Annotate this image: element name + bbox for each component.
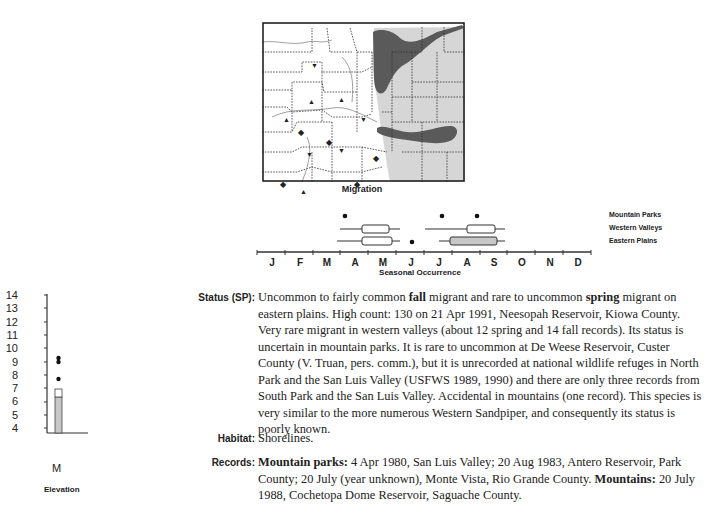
- diamond-icon: ◆: [373, 154, 379, 163]
- legend-mountain-parks: Mountain Parks: [609, 211, 661, 218]
- map-title: Migration: [262, 184, 462, 194]
- seasonal-axis-title: Seasonal Occurrence: [360, 268, 480, 277]
- month-label: N: [540, 257, 560, 268]
- month-label: M: [373, 257, 393, 268]
- migration-map: ▼ ▲ ▲ ▲ ▼ ◆ ◆ ▼ ▼ ◆ ◆ ▲ ◆: [262, 22, 465, 182]
- month-label: F: [290, 257, 310, 268]
- legend-western-valleys: Western Valleys: [609, 224, 662, 231]
- month-label: D: [568, 257, 588, 268]
- elevation-x-label: M: [52, 462, 61, 474]
- month-label: M: [317, 257, 337, 268]
- habitat-text: Shorelines.: [258, 430, 703, 447]
- month-label: J: [429, 257, 449, 268]
- month-label: J: [401, 257, 421, 268]
- triangle-down-icon: ▼: [306, 151, 313, 159]
- status-label: Status (SP):: [160, 292, 255, 303]
- elevation-graphic: [0, 290, 100, 460]
- triangle-down-icon: ▼: [360, 116, 367, 124]
- triangle-down-icon: ▼: [311, 62, 318, 70]
- triangle-down-icon: ▼: [338, 147, 345, 155]
- month-label: A: [345, 257, 365, 268]
- elevation-title: Elevation: [44, 485, 80, 494]
- triangle-up-icon: ▲: [338, 96, 345, 104]
- records-label: Records:: [160, 457, 255, 468]
- triangle-up-icon: ▲: [283, 116, 290, 124]
- boxplot-graphic: [255, 205, 595, 255]
- status-text: Uncommon to fairly common fall migrant a…: [258, 289, 703, 438]
- month-label: A: [457, 257, 477, 268]
- elevation-chart: 14 13 12 11 10 9 8 7 6 5 4: [0, 290, 100, 460]
- seasonal-occurrence-chart: [255, 205, 595, 255]
- records-text: Mountain parks: 4 Apr 1980, San Luis Val…: [258, 454, 703, 504]
- month-label: S: [484, 257, 504, 268]
- colorado-map-graphic: [262, 22, 465, 182]
- triangle-up-icon: ▲: [308, 98, 315, 106]
- habitat-label: Habitat:: [160, 433, 255, 444]
- month-label: O: [512, 257, 532, 268]
- diamond-icon: ◆: [326, 138, 332, 147]
- diamond-icon: ◆: [298, 128, 304, 137]
- month-label: J: [262, 257, 282, 268]
- legend-eastern-plains: Eastern Plains: [609, 237, 657, 244]
